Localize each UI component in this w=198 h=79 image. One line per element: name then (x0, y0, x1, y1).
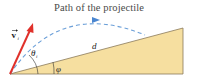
velocity-arrowhead-icon (27, 23, 34, 33)
projectile-incline-diagram: v i θ i φ d (0, 0, 198, 79)
incline-wedge (10, 28, 183, 74)
theta-label: θ i (31, 48, 38, 59)
path-direction-arrow-icon (92, 17, 100, 23)
distance-label: d (92, 41, 97, 51)
svg-text:i: i (36, 54, 38, 59)
velocity-label: v i (12, 29, 20, 41)
svg-text:i: i (18, 36, 20, 41)
svg-text:v: v (12, 30, 17, 40)
phi-label: φ (56, 64, 61, 74)
